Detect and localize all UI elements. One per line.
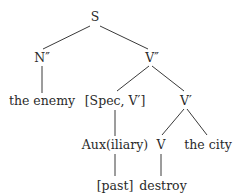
edge-v1-v [162, 109, 184, 135]
syntax-tree: S N″ V″ the enemy [Spec, V′] V′ Aux(ilia… [0, 0, 239, 194]
edge-v2-v1 [152, 66, 184, 91]
edge-v1-city [187, 109, 207, 135]
node-spec-v-bar: [Spec, V′] [85, 95, 146, 108]
edge-v2-spec [117, 66, 149, 91]
leaf-past: [past] [97, 180, 134, 193]
node-n-double-bar: N″ [34, 52, 50, 65]
node-s: S [91, 11, 100, 24]
node-auxiliary: Aux(iliary) [82, 139, 148, 152]
node-v-bar: V′ [180, 95, 192, 108]
leaf-the-city: the city [184, 139, 232, 152]
node-v: V [156, 139, 165, 152]
leaf-the-enemy: the enemy [9, 95, 75, 108]
leaf-destroy: destroy [139, 180, 186, 193]
edge-s-v2 [100, 26, 148, 49]
edge-s-n2 [43, 26, 90, 49]
node-v-double-bar: V″ [145, 52, 159, 65]
